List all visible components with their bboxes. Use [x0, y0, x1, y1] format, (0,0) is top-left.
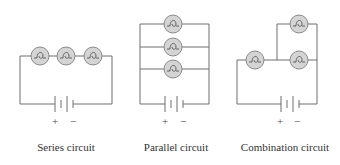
parallel-circuit-caption: Parallel circuit: [144, 141, 208, 153]
minus-terminal-label: −: [70, 115, 76, 127]
minus-terminal-label: −: [294, 115, 300, 127]
series-circuit-caption: Series circuit: [37, 141, 95, 153]
bulb-icon: [84, 47, 102, 65]
battery-icon: [55, 96, 73, 112]
bulb-icon: [290, 51, 308, 69]
bulb-icon: [31, 47, 49, 65]
plus-terminal-label: +: [52, 115, 58, 127]
bulb-icon: [290, 15, 308, 33]
bulb-icon: [164, 38, 182, 56]
combination-circuit: [237, 15, 317, 112]
plus-terminal-label: +: [162, 115, 168, 127]
plus-terminal-label: +: [277, 115, 283, 127]
series-circuit: [20, 47, 112, 112]
battery-icon: [165, 96, 183, 112]
bulb-icon: [164, 15, 182, 33]
combination-circuit-caption: Combination circuit: [241, 141, 329, 153]
bulb-icon: [57, 47, 75, 65]
battery-icon: [281, 96, 299, 112]
bulb-icon: [246, 51, 264, 69]
parallel-circuit: [140, 15, 209, 112]
minus-terminal-label: −: [180, 115, 186, 127]
bulb-icon: [164, 60, 182, 78]
